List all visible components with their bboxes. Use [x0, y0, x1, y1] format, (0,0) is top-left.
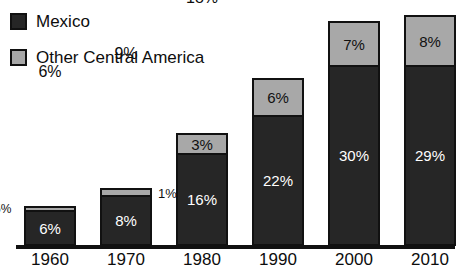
x-tick-label-1960: 1960: [24, 250, 76, 269]
segment-label-other-2000: 7%: [343, 37, 365, 52]
bar-segment-other-1980: 3%: [178, 135, 226, 155]
bar-1990: 6% 22%: [252, 78, 304, 246]
segment-label-mexico-1980: 16%: [187, 192, 217, 207]
segment-label-mexico-1990: 22%: [263, 173, 293, 188]
bar-segment-mexico-1960: 6%: [26, 212, 74, 244]
bar-segment-other-1970: 1%: [102, 190, 150, 197]
bar-2000: 7% 30%: [328, 21, 380, 246]
bar-1960: 0.5% 6%: [24, 206, 76, 246]
bar-1970: 1% 8%: [100, 188, 152, 246]
segment-label-other-1990: 6%: [267, 90, 289, 105]
bar-segment-mexico-2010: 29%: [406, 67, 454, 244]
bar-segment-other-2000: 7%: [330, 23, 378, 67]
segment-label-mexico-2010: 29%: [415, 148, 445, 163]
x-tick-label-2010: 2010: [404, 250, 456, 269]
segment-label-mexico-2000: 30%: [339, 148, 369, 163]
bar-2010: 8% 29%: [404, 15, 456, 246]
segment-label-mexico-1970: 8%: [115, 213, 137, 228]
segment-label-other-1980: 3%: [191, 137, 213, 152]
plot-area: 6% 0.5% 6% 1960 9% 1% 8% 1970 18% 3%: [0, 0, 462, 271]
segment-label-other-1960: 0.5%: [0, 202, 11, 217]
segment-label-other-2010: 8%: [419, 34, 441, 49]
bar-segment-other-1990: 6%: [254, 80, 302, 117]
segment-label-mexico-1960: 6%: [39, 221, 61, 236]
x-axis-line: [16, 245, 455, 249]
bar-segment-mexico-2000: 30%: [330, 67, 378, 244]
total-label-1970: 9%: [100, 46, 152, 62]
bar-segment-other-2010: 8%: [406, 17, 454, 67]
bar-1980: 3% 16%: [176, 133, 228, 246]
stacked-bar-chart: Mexico Other Central America 6% 0.5% 6% …: [0, 0, 462, 271]
bar-segment-mexico-1990: 22%: [254, 117, 302, 244]
segment-label-other-1970: 1%: [158, 185, 177, 200]
x-tick-label-1970: 1970: [100, 250, 152, 269]
x-tick-label-2000: 2000: [328, 250, 380, 269]
total-label-1980: 18%: [176, 0, 228, 6]
bar-segment-mexico-1980: 16%: [178, 155, 226, 244]
x-tick-label-1990: 1990: [252, 250, 304, 269]
total-label-1960: 6%: [24, 64, 76, 80]
x-tick-label-1980: 1980: [176, 250, 228, 269]
bar-segment-mexico-1970: 8%: [102, 197, 150, 244]
